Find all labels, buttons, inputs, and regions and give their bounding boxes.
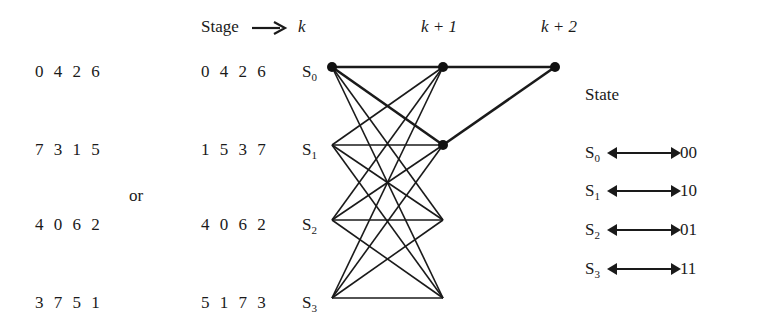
double-arrow-icon: [607, 184, 681, 198]
legend-state-s3: S3: [585, 259, 600, 280]
trellis-edges: [332, 67, 555, 298]
legend-title: State: [585, 86, 619, 103]
double-arrow-icon: [607, 223, 681, 237]
legend-bits-s3: 11: [680, 259, 696, 279]
node-s0-k1: [438, 62, 448, 72]
legend-bits-s1: 10: [680, 181, 697, 201]
trellis-nodes: [327, 62, 560, 150]
double-arrow-icon: [607, 262, 681, 276]
trellis-diagram: [0, 0, 757, 326]
legend-state-s1: S1: [585, 181, 600, 202]
legend-state-s0: S0: [585, 143, 600, 164]
node-s1-k1: [438, 140, 448, 150]
legend-bits-s0: 00: [680, 143, 697, 163]
double-arrow-icon: [607, 146, 681, 160]
node-s0-k: [327, 62, 337, 72]
legend-state-s2: S2: [585, 220, 600, 241]
node-s0-k2: [550, 62, 560, 72]
legend-bits-s2: 01: [680, 220, 697, 240]
